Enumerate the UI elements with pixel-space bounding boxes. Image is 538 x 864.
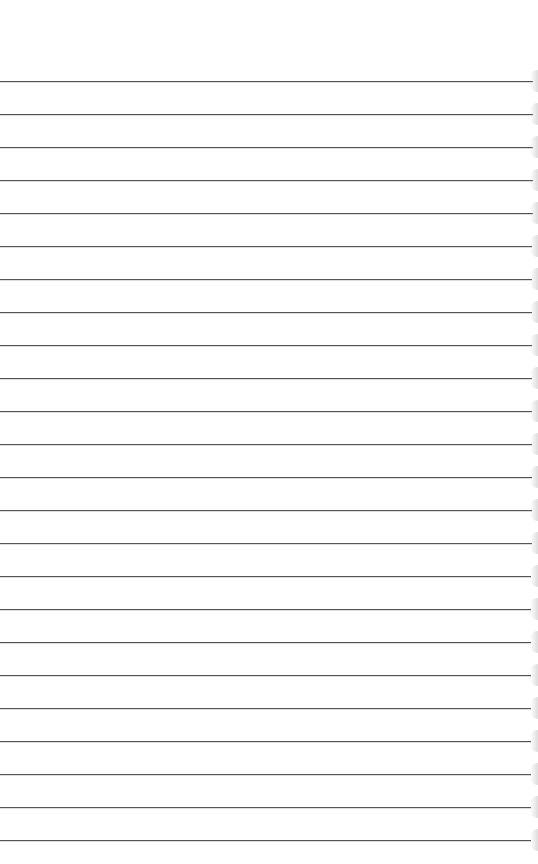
ruled-line — [0, 180, 533, 181]
ruled-line — [0, 840, 531, 841]
ruled-line — [0, 114, 533, 115]
edge-perforation — [530, 400, 538, 422]
ruled-line — [0, 609, 531, 610]
edge-perforation — [530, 103, 538, 125]
ruled-line — [0, 477, 532, 478]
edge-perforation — [530, 202, 538, 224]
ruled-line — [0, 279, 532, 280]
edge-perforation — [530, 301, 538, 323]
edge-perforation — [530, 565, 538, 587]
edge-perforation — [530, 169, 538, 191]
ruled-line — [0, 510, 532, 511]
edge-perforation — [530, 499, 538, 521]
ruled-line — [0, 81, 533, 82]
edge-perforation — [530, 697, 538, 719]
ruled-line — [0, 642, 531, 643]
ruled-line — [0, 576, 531, 577]
ruled-line — [0, 543, 532, 544]
edge-perforation — [530, 268, 538, 290]
ruled-line — [0, 774, 531, 775]
edge-perforation — [530, 631, 538, 653]
edge-perforation — [530, 532, 538, 554]
lined-paper-sheet — [0, 0, 538, 864]
edge-perforation — [530, 829, 538, 851]
edge-perforation — [530, 136, 538, 158]
ruled-line — [0, 444, 532, 445]
edge-perforation — [530, 598, 538, 620]
ruled-line — [0, 147, 533, 148]
edge-perforation — [530, 730, 538, 752]
edge-perforation — [530, 433, 538, 455]
edge-perforation — [530, 466, 538, 488]
ruled-line — [0, 345, 532, 346]
edge-perforation — [530, 334, 538, 356]
ruled-line — [0, 378, 532, 379]
ruled-line — [0, 708, 531, 709]
edge-perforation — [530, 70, 538, 92]
ruled-line — [0, 807, 531, 808]
edge-perforation — [530, 664, 538, 686]
ruled-line — [0, 312, 532, 313]
edge-perforation — [530, 796, 538, 818]
ruled-line — [0, 675, 531, 676]
ruled-line — [0, 741, 531, 742]
ruled-line — [0, 213, 533, 214]
ruled-line — [0, 246, 532, 247]
edge-perforation — [530, 763, 538, 785]
ruled-line — [0, 411, 532, 412]
edge-perforation — [530, 367, 538, 389]
edge-perforation — [530, 235, 538, 257]
